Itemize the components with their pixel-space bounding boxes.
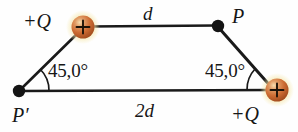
point-dot-p bbox=[212, 20, 224, 32]
label-point-p-prime: P′ bbox=[12, 105, 29, 125]
label-distance-bottom: 2d bbox=[135, 101, 154, 120]
edge-top-side bbox=[88, 26, 216, 27]
label-point-p: P bbox=[232, 6, 244, 26]
label-angle-left: 45,0° bbox=[48, 61, 88, 80]
point-dot-p-prime bbox=[13, 85, 25, 97]
label-charge-left: +Q bbox=[23, 11, 51, 31]
physics-diagram-figure: +Q +Q P P′ d 2d 45,0° 45,0° bbox=[0, 0, 298, 132]
label-angle-right: 45,0° bbox=[205, 61, 245, 80]
label-distance-top: d bbox=[143, 4, 153, 23]
label-charge-right: +Q bbox=[231, 104, 259, 124]
trapezoid-edges bbox=[21, 26, 273, 92]
charge-sphere-left bbox=[72, 16, 95, 39]
angle-arc-right bbox=[247, 69, 255, 90]
charge-sphere-right bbox=[266, 79, 289, 102]
edge-bottom-side bbox=[21, 90, 272, 91]
